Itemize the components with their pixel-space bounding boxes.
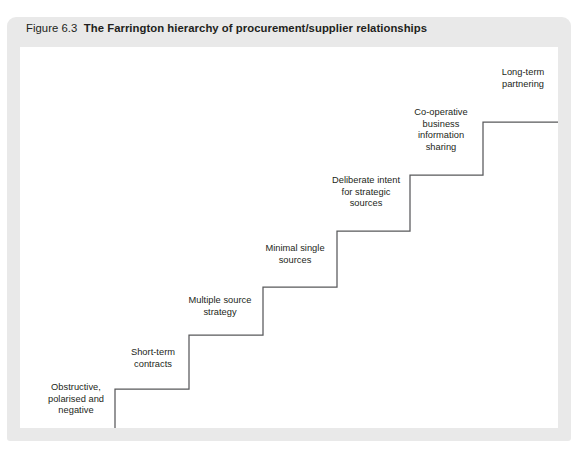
step-label-6: Co-operative business information sharin…	[401, 107, 481, 153]
diagram-canvas: Obstructive, polarised and negative Shor…	[20, 47, 558, 428]
figure-title: The Farrington hierarchy of procurement/…	[84, 22, 427, 34]
staircase-path	[20, 47, 558, 428]
step-label-5: Deliberate intent for strategic sources	[324, 175, 408, 210]
figure-number: Figure 6.3	[26, 22, 77, 34]
figure-panel: Figure 6.3 The Farrington hierarchy of p…	[7, 17, 571, 441]
step-label-1: Obstructive, polarised and negative	[36, 382, 116, 417]
figure-caption: Figure 6.3 The Farrington hierarchy of p…	[26, 22, 427, 34]
step-label-3: Multiple source strategy	[179, 295, 261, 318]
step-label-4: Minimal single sources	[255, 243, 335, 266]
step-label-2: Short-term contracts	[119, 347, 187, 370]
figure-container: Figure 6.3 The Farrington hierarchy of p…	[0, 0, 580, 462]
figure-caption-bar: Figure 6.3 The Farrington hierarchy of p…	[7, 17, 571, 47]
step-label-7: Long-term partnering	[488, 67, 558, 90]
